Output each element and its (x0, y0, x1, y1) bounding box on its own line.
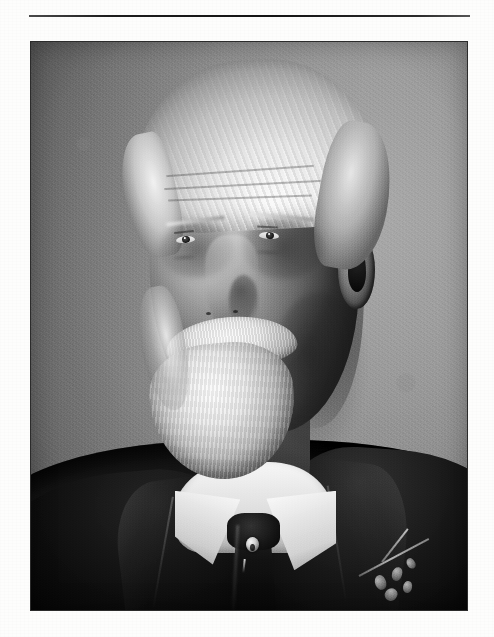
photograph-image-area (31, 42, 467, 610)
top-horizontal-rule (29, 15, 470, 17)
portrait-photograph (31, 42, 467, 610)
book-page (0, 0, 494, 637)
sprig-bud (403, 581, 414, 594)
sprig-bud (390, 566, 403, 582)
tie-stickpin-stone (250, 544, 255, 551)
sprig-bud (405, 556, 418, 570)
right-nostril (233, 310, 238, 313)
portrait-subject (31, 42, 467, 610)
boutonniere-sprig (354, 530, 450, 610)
right-eye-catchlight (268, 233, 270, 235)
sprig-bud (372, 573, 388, 591)
right-eye (258, 231, 278, 239)
